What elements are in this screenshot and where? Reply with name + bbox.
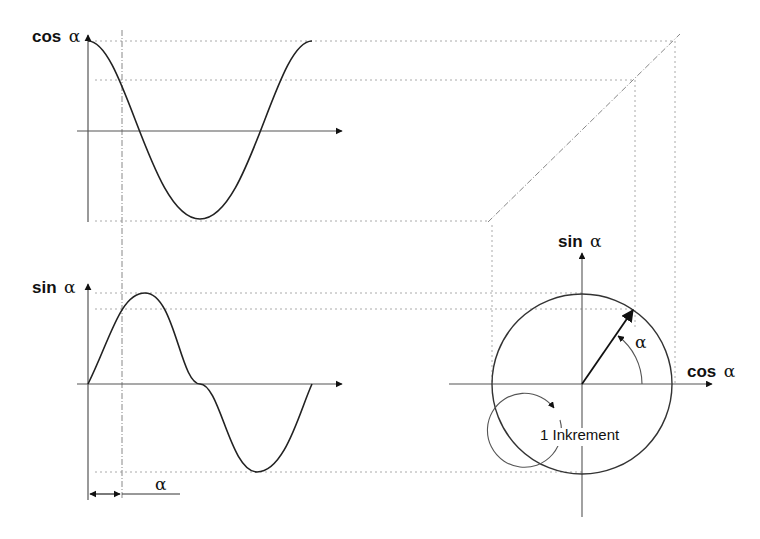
circle-angle-label: α bbox=[635, 332, 647, 352]
circle-sin-label: sin α bbox=[558, 231, 602, 251]
cos-chart-label: cos α bbox=[32, 26, 81, 46]
sin-cos-encoder-diagram: cos α sin α α α sin α cos α 1 I bbox=[0, 0, 760, 539]
angle-span-label: α bbox=[155, 474, 167, 494]
cos-chart: cos α bbox=[32, 26, 342, 222]
circle-cos-label: cos α bbox=[687, 361, 736, 381]
projection-guides bbox=[95, 41, 675, 472]
increment-label: 1 Inkrement bbox=[540, 426, 620, 443]
sin-chart: sin α α bbox=[32, 277, 342, 500]
unit-circle-diagram: α sin α cos α 1 Inkrement bbox=[449, 231, 736, 517]
sin-chart-label: sin α bbox=[32, 277, 76, 297]
rotation-vector bbox=[582, 310, 633, 384]
